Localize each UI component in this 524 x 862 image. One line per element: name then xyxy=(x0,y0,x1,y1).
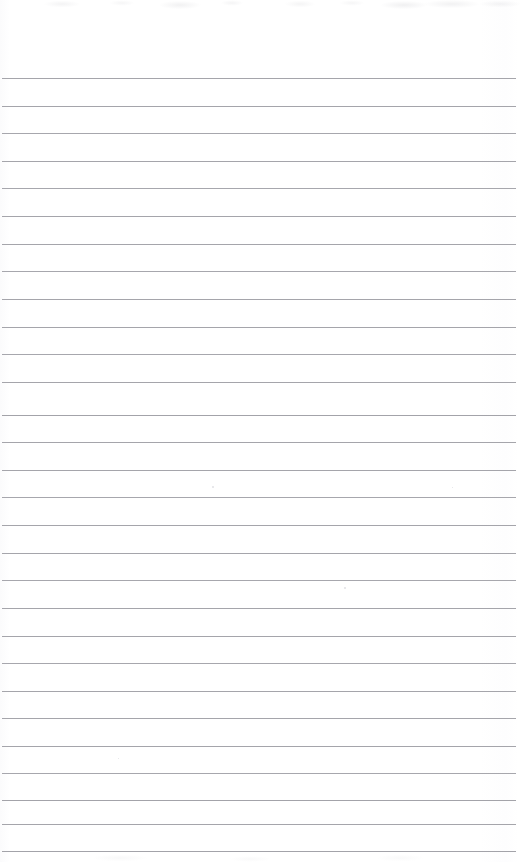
rule-line xyxy=(2,442,516,443)
rule-line xyxy=(2,746,516,747)
rule-line xyxy=(2,78,516,79)
rule-line xyxy=(2,382,516,383)
rule-line xyxy=(2,691,516,692)
dust-speck xyxy=(118,758,119,759)
rule-line xyxy=(2,636,516,637)
rule-line xyxy=(2,553,516,554)
rule-line xyxy=(2,106,516,107)
rule-line xyxy=(2,800,516,801)
rule-line xyxy=(2,216,516,217)
rule-line xyxy=(2,718,516,719)
rule-line xyxy=(2,851,516,852)
rule-line xyxy=(2,188,516,189)
rule-line xyxy=(2,608,516,609)
rule-line xyxy=(2,497,516,498)
rule-line xyxy=(2,354,516,355)
scanned-page xyxy=(0,0,524,862)
rule-line xyxy=(2,663,516,664)
rule-line xyxy=(2,470,516,471)
paper-sheet xyxy=(0,0,524,862)
dust-speck xyxy=(452,487,453,488)
rule-line xyxy=(2,525,516,526)
dust-speck xyxy=(212,486,214,488)
rule-line xyxy=(2,161,516,162)
rule-line xyxy=(2,133,516,134)
rule-line xyxy=(2,415,516,416)
rule-line xyxy=(2,824,516,825)
rule-line xyxy=(2,299,516,300)
dust-speck xyxy=(344,587,346,589)
rule-line xyxy=(2,244,516,245)
rule-line xyxy=(2,327,516,328)
rule-line xyxy=(2,271,516,272)
rule-line xyxy=(2,580,516,581)
rule-line xyxy=(2,773,516,774)
